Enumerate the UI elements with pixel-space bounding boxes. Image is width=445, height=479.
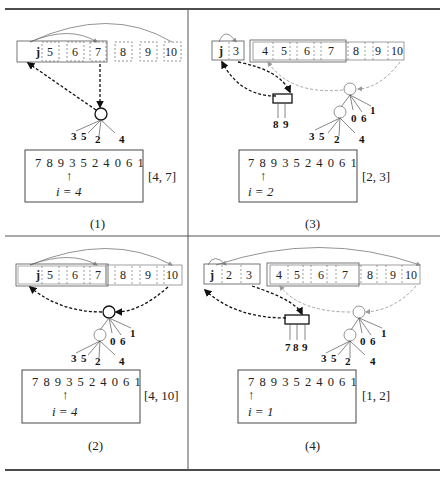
svg-text:10: 10 [391,44,403,58]
svg-text:↑: ↑ [62,387,69,402]
svg-text:3: 3 [71,130,77,142]
panel-caption: (1) [90,216,105,231]
interval-label: [4, 7] [148,169,176,184]
svg-text:8: 8 [293,341,299,353]
svg-text:2: 2 [95,355,101,367]
svg-text:6: 6 [72,45,78,59]
svg-text:7 8 9 3 5 2 4 0 6 1: 7 8 9 3 5 2 4 0 6 1 [32,375,142,389]
panel-caption: (2) [88,438,103,453]
svg-text:5: 5 [47,268,53,282]
svg-text:0: 0 [351,112,357,124]
svg-text:10: 10 [405,268,417,282]
svg-text:0: 0 [110,335,116,347]
svg-text:4: 4 [262,44,268,58]
svg-text:5: 5 [319,130,325,142]
svg-text:8: 8 [273,118,279,130]
svg-text:6: 6 [361,112,367,124]
svg-text:7: 7 [328,44,334,58]
svg-text:7 8 9 3 5 2 4 0 6 1: 7 8 9 3 5 2 4 0 6 1 [248,375,358,389]
svg-text:↑: ↑ [248,387,255,402]
panel-1: j 5 6 7 8 9 10 3 5 2 4 7 8 9 3 5 2 4 0 6… [17,24,181,232]
tree-node [95,108,107,120]
panel-2: j 5 6 7 8 9 10 0 6 1 3 5 2 4 7 8 9 3 5 2… [16,249,182,454]
svg-text:2: 2 [226,268,232,282]
svg-text:8: 8 [120,45,126,59]
svg-text:9: 9 [390,268,396,282]
svg-text:7: 7 [342,268,348,282]
svg-text:j: j [218,44,223,58]
svg-text:9: 9 [145,45,151,59]
svg-text:9: 9 [375,44,381,58]
svg-text:0: 0 [360,335,366,347]
panel-3: j 3 4 5 6 7 8 9 10 8 9 [212,34,404,231]
svg-text:4: 4 [119,133,125,145]
svg-text:8: 8 [367,268,373,282]
svg-text:5: 5 [331,352,337,364]
svg-text:8: 8 [353,44,359,58]
cell-j: j [35,45,40,59]
svg-text:↑: ↑ [66,168,73,183]
panel-caption: (4) [305,438,320,453]
svg-text:7: 7 [285,341,291,353]
svg-text:6: 6 [370,335,376,347]
svg-text:8: 8 [120,268,126,282]
svg-text:j: j [209,268,214,282]
svg-text:5: 5 [294,268,300,282]
svg-text:i = 4: i = 4 [56,184,82,199]
svg-text:4: 4 [359,133,365,145]
svg-text:i = 4: i = 4 [52,404,78,419]
svg-text:9: 9 [145,268,151,282]
svg-text:10: 10 [165,45,177,59]
svg-text:1: 1 [370,104,376,116]
svg-text:6: 6 [72,268,78,282]
svg-text:5: 5 [81,352,87,364]
svg-text:3: 3 [309,130,315,142]
svg-text:j: j [35,268,40,282]
svg-text:5: 5 [281,44,287,58]
svg-text:4: 4 [370,355,376,367]
interval-label: [2, 3] [362,169,390,184]
svg-text:6: 6 [318,268,324,282]
svg-text:6: 6 [304,44,310,58]
node-box [285,315,309,324]
svg-text:5: 5 [47,45,53,59]
svg-text:7: 7 [95,45,101,59]
svg-text:1: 1 [130,327,136,339]
interval-label: [1, 2] [362,388,390,403]
panel-caption: (3) [305,216,320,231]
svg-text:3: 3 [246,268,252,282]
svg-text:6: 6 [120,335,126,347]
svg-text:5: 5 [81,130,87,142]
svg-text:9: 9 [302,341,308,353]
array-window [17,41,107,62]
svg-text:3: 3 [71,352,77,364]
panel-4: j 2 3 4 5 6 7 8 9 10 7 8 9 [204,248,420,454]
svg-text:2: 2 [95,133,101,145]
svg-text:10: 10 [166,268,178,282]
svg-text:3: 3 [321,352,327,364]
svg-text:9: 9 [283,118,289,130]
svg-text:3: 3 [233,44,239,58]
svg-text:2: 2 [334,133,340,145]
svg-text:1: 1 [381,327,387,339]
svg-text:4: 4 [119,355,125,367]
tree-node [103,306,115,318]
figure-canvas: j 5 6 7 8 9 10 3 5 2 4 7 8 9 3 5 2 4 0 6… [0,0,445,479]
interval-label: [4, 10] [144,388,179,403]
svg-text:7 8 9 3 5 2 4 0 6 1: 7 8 9 3 5 2 4 0 6 1 [35,156,145,170]
svg-text:i = 1: i = 1 [248,404,273,419]
svg-text:i = 2: i = 2 [248,184,274,199]
svg-text:2: 2 [345,355,351,367]
svg-text:4: 4 [276,268,282,282]
svg-text:7: 7 [95,268,101,282]
svg-text:↑: ↑ [260,168,267,183]
